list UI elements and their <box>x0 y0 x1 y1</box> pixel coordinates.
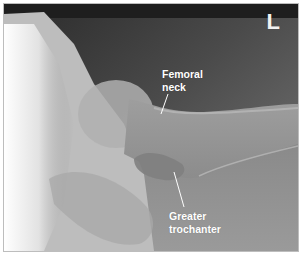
femoral-neck-label: Femoral neck <box>162 68 203 93</box>
radiograph-frame: L Femoral neck Greater trochanter <box>3 3 299 252</box>
femoral-neck-label-line1: Femoral <box>162 68 203 81</box>
greater-trochanter-label-line2: trochanter <box>169 223 221 236</box>
femoral-neck-label-line2: neck <box>162 81 203 94</box>
side-marker: L <box>267 11 280 33</box>
greater-trochanter-label-line1: Greater <box>169 210 221 223</box>
greater-trochanter-label: Greater trochanter <box>169 210 221 235</box>
xray-image <box>4 4 298 251</box>
